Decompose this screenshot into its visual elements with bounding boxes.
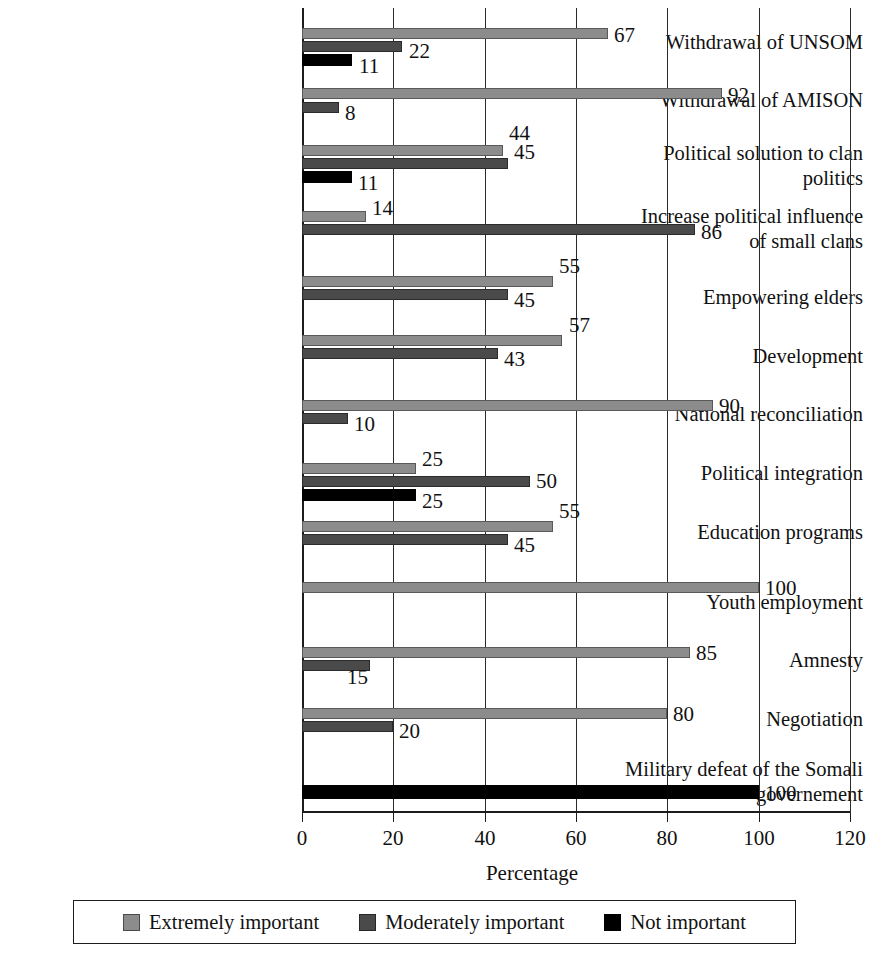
bar-group-political-solution-clan-politics: 44 45 11 bbox=[302, 145, 850, 195]
value-label-notimportant: 11 bbox=[358, 173, 378, 194]
value-label-moderately: 50 bbox=[536, 471, 557, 492]
value-label-extremely: 14 bbox=[372, 198, 393, 219]
bar-not-important[interactable] bbox=[302, 54, 352, 66]
bar-group-negotiation: 80 20 bbox=[302, 708, 850, 742]
value-label-extremely: 57 bbox=[569, 315, 590, 336]
legend-item-label: Extremely important bbox=[149, 911, 319, 934]
bar-moderately-important[interactable] bbox=[302, 721, 393, 732]
value-label-moderately: 45 bbox=[514, 290, 535, 311]
bar-group-youth-employment: 100 bbox=[302, 582, 850, 602]
bar-extremely-important[interactable] bbox=[302, 88, 722, 99]
xtick-label-120: 120 bbox=[834, 828, 866, 849]
bar-moderately-important[interactable] bbox=[302, 413, 348, 424]
bar-moderately-important[interactable] bbox=[302, 41, 402, 52]
bar-not-important[interactable] bbox=[302, 171, 352, 183]
value-label-moderately: 8 bbox=[345, 103, 356, 124]
value-label-extremely: 25 bbox=[422, 449, 443, 470]
x-axis-title: Percentage bbox=[302, 861, 762, 886]
tick-20 bbox=[393, 813, 394, 822]
bar-group-national-reconciliation: 90 10 bbox=[302, 400, 850, 434]
bar-moderately-important[interactable] bbox=[302, 224, 695, 235]
bar-moderately-important[interactable] bbox=[302, 534, 508, 545]
value-label-moderately: 10 bbox=[354, 414, 375, 435]
tick-120 bbox=[850, 813, 851, 822]
bar-extremely-important[interactable] bbox=[302, 335, 562, 346]
value-label-extremely: 90 bbox=[719, 396, 740, 417]
bar-group-increase-political-influence-small-clans: 14 86 bbox=[302, 211, 850, 245]
value-label-extremely: 55 bbox=[559, 501, 580, 522]
bar-extremely-important[interactable] bbox=[302, 521, 553, 532]
bar-group-military-defeat-somali-government: 100 bbox=[302, 785, 850, 805]
tick-0 bbox=[302, 813, 303, 822]
legend-item-not-important[interactable]: Not important bbox=[604, 911, 746, 934]
bar-not-important[interactable] bbox=[302, 489, 416, 501]
chart-legend: Extremely important Moderately important… bbox=[73, 900, 796, 944]
bar-extremely-important[interactable] bbox=[302, 276, 553, 287]
value-label-moderately: 43 bbox=[504, 349, 525, 370]
xtick-label-80: 80 bbox=[657, 828, 678, 849]
bar-extremely-important[interactable] bbox=[302, 708, 667, 719]
value-label-extremely: 67 bbox=[614, 25, 635, 46]
xtick-label-0: 0 bbox=[297, 828, 308, 849]
bar-not-important[interactable] bbox=[302, 785, 759, 799]
bar-moderately-important[interactable] bbox=[302, 289, 508, 300]
tick-80 bbox=[667, 813, 668, 822]
value-label-moderately: 22 bbox=[409, 41, 430, 62]
value-label-moderately: 86 bbox=[701, 222, 722, 243]
bar-extremely-important[interactable] bbox=[302, 28, 608, 39]
chart-figure: Withdrawal of UNSOM Withdrawal of AMISON… bbox=[0, 0, 869, 955]
tick-40 bbox=[485, 813, 486, 822]
bar-moderately-important[interactable] bbox=[302, 102, 339, 113]
bar-moderately-important[interactable] bbox=[302, 158, 508, 169]
legend-item-extremely-important[interactable]: Extremely important bbox=[123, 911, 319, 934]
legend-item-moderately-important[interactable]: Moderately important bbox=[359, 911, 564, 934]
legend-swatch-icon bbox=[604, 914, 621, 931]
xtick-label-20: 20 bbox=[383, 828, 404, 849]
xtick-label-100: 100 bbox=[743, 828, 775, 849]
bar-moderately-important[interactable] bbox=[302, 348, 498, 359]
plot-area: 67 22 11 92 8 44 45 11 14 86 bbox=[302, 8, 850, 813]
value-label-moderately: 20 bbox=[399, 721, 420, 742]
bar-extremely-important[interactable] bbox=[302, 400, 713, 411]
bar-group-withdrawal-unsom: 67 22 11 bbox=[302, 28, 850, 74]
bar-extremely-important[interactable] bbox=[302, 647, 690, 658]
tick-100 bbox=[759, 813, 760, 822]
bar-extremely-important[interactable] bbox=[302, 145, 503, 156]
bar-extremely-important[interactable] bbox=[302, 211, 366, 222]
value-label-notimportant: 11 bbox=[359, 56, 379, 77]
value-label-extremely: 100 bbox=[765, 578, 797, 599]
xtick-label-40: 40 bbox=[475, 828, 496, 849]
xtick-label-60: 60 bbox=[566, 828, 587, 849]
value-label-moderately: 15 bbox=[347, 667, 368, 688]
legend-item-label: Not important bbox=[630, 911, 746, 934]
bar-group-development: 57 43 bbox=[302, 335, 850, 369]
value-label-extremely: 92 bbox=[728, 85, 749, 106]
bar-extremely-important[interactable] bbox=[302, 463, 416, 474]
legend-swatch-icon bbox=[123, 914, 140, 931]
legend-swatch-icon bbox=[359, 914, 376, 931]
value-label-moderately: 45 bbox=[514, 142, 535, 163]
bar-moderately-important[interactable] bbox=[302, 476, 530, 487]
gridline-120 bbox=[850, 8, 851, 813]
value-label-extremely: 80 bbox=[673, 704, 694, 725]
bar-group-empowering-elders: 55 45 bbox=[302, 276, 850, 310]
value-label-extremely: 55 bbox=[559, 256, 580, 277]
bar-extremely-important[interactable] bbox=[302, 582, 759, 593]
bar-group-amnesty: 85 15 bbox=[302, 647, 850, 681]
bar-group-education-programs: 55 45 bbox=[302, 521, 850, 555]
value-label-extremely: 85 bbox=[696, 643, 717, 664]
value-label-notimportant: 25 bbox=[422, 491, 443, 512]
bar-group-withdrawal-amison: 92 8 bbox=[302, 88, 850, 122]
value-label-notimportant: 100 bbox=[765, 783, 797, 804]
value-label-moderately: 45 bbox=[514, 535, 535, 556]
tick-60 bbox=[576, 813, 577, 822]
legend-item-label: Moderately important bbox=[385, 911, 564, 934]
